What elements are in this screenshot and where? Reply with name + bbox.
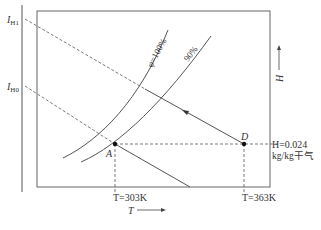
ih0-subscript: H0 bbox=[10, 86, 19, 94]
humidity-value: H=0.024 bbox=[272, 139, 307, 150]
ih0-dashed-line bbox=[25, 86, 115, 144]
ih0-label: IH0 bbox=[7, 81, 19, 96]
point-a-label: A bbox=[106, 148, 112, 159]
temperature-a-label: T=303K bbox=[113, 192, 147, 203]
ih1-subscript: H1 bbox=[10, 19, 19, 27]
h-axis-label: H bbox=[274, 74, 285, 83]
humidity-unit-label: kg/kg干气 bbox=[272, 151, 314, 162]
ih1-label: IH1 bbox=[7, 14, 19, 29]
chart-frame bbox=[37, 11, 270, 187]
point-d-label: D bbox=[241, 131, 248, 142]
direction-arrow-icon bbox=[182, 110, 189, 115]
ih1-dashed-line bbox=[25, 19, 145, 89]
ih1-solid-line bbox=[145, 89, 244, 144]
h-axis-arrow-icon bbox=[277, 45, 281, 50]
phi-100-label: φ=100% bbox=[145, 36, 169, 69]
phi-90-label: 90% bbox=[182, 44, 200, 64]
temperature-d-label: T=363K bbox=[242, 192, 276, 203]
humidity-value-label: H=0.024 bbox=[272, 139, 307, 150]
t-axis-label: T bbox=[128, 205, 134, 216]
ih0-solid-line bbox=[115, 144, 190, 187]
point-d-marker bbox=[242, 142, 246, 146]
point-a-marker bbox=[113, 142, 117, 146]
t-axis-arrow-icon bbox=[161, 208, 166, 212]
